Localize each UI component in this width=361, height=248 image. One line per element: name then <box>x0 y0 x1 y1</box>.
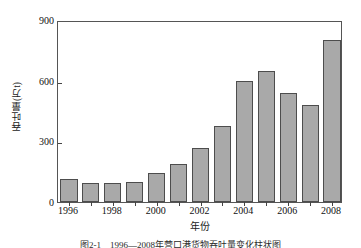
y-tick-label: 300 <box>20 137 54 147</box>
bar <box>214 126 231 202</box>
bar <box>302 105 319 202</box>
x-tick-label: 2008 <box>321 205 341 216</box>
x-tick-label: 1998 <box>102 205 122 216</box>
bar <box>170 164 187 202</box>
bar <box>323 40 340 202</box>
y-tick-label: 0 <box>20 198 54 208</box>
y-axis-tick-labels: 0300600900 <box>18 0 54 248</box>
y-tick-mark <box>58 143 62 144</box>
bar <box>258 71 275 202</box>
x-axis-tick-labels: 1996199820002002200420062008 <box>57 205 342 219</box>
y-tick-label: 600 <box>20 77 54 87</box>
y-tick-label: 900 <box>20 16 54 26</box>
x-tick-label: 2000 <box>146 205 166 216</box>
plot-area <box>57 21 342 203</box>
x-tick-label: 2006 <box>277 205 297 216</box>
y-tick-mark <box>58 83 62 84</box>
x-axis-title: 年份 <box>57 218 342 233</box>
figure-caption: 图2-1 1996—2008年营口港货物吞吐量变化柱状图 <box>0 238 361 248</box>
bar <box>192 148 209 202</box>
bar <box>60 179 77 202</box>
bar <box>280 93 297 202</box>
bar <box>236 81 253 202</box>
bar <box>82 183 99 202</box>
figure-bar-chart: 吞吐量(万t) 0300600900 199619982000200220042… <box>0 0 361 248</box>
bar-series <box>58 22 341 202</box>
bar <box>126 182 143 202</box>
bar <box>104 183 121 202</box>
x-tick-label: 2002 <box>190 205 210 216</box>
x-tick-label: 1996 <box>58 205 78 216</box>
x-tick-label: 2004 <box>233 205 253 216</box>
bar <box>148 173 165 202</box>
